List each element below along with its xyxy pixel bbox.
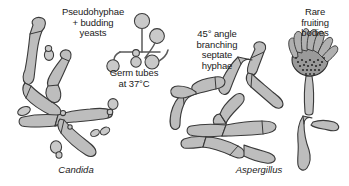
septate-hypha-segment	[220, 93, 244, 123]
pseudohypha-segment	[23, 17, 45, 84]
fungal-morphology-figure: Pseudohyphae + budding yeasts Germ tubes…	[0, 0, 349, 186]
germ-tube-yeast	[133, 50, 140, 57]
septate-hypha-segment	[311, 121, 339, 131]
budding-yeast	[45, 46, 51, 52]
septate-hypha-segment	[203, 137, 245, 158]
label-germ-tubes: Germ tubes at 37°C	[99, 68, 169, 89]
germ-tube-yeast	[131, 57, 141, 67]
pseudohypha-segment	[58, 119, 96, 156]
septate-hypha-segment	[247, 42, 265, 76]
septate-hypha-segment	[298, 116, 312, 170]
label-fruiting-bodies: Rare fruiting bodies	[288, 7, 342, 39]
septate-hypha-segment	[244, 145, 275, 163]
germ-tube	[114, 52, 120, 60]
budding-yeast	[50, 141, 61, 153]
germ-tube-yeast	[150, 29, 165, 44]
label-septate-hyphae: 45° angle branching septate hyphae	[186, 29, 248, 71]
budding-yeast	[107, 109, 113, 115]
label-pseudohyphae: Pseudohyphae + budding yeasts	[52, 7, 134, 39]
caption-aspergillus: Aspergillus	[213, 164, 305, 175]
conidiophore-stipe	[304, 76, 313, 115]
budding-yeast	[108, 99, 118, 110]
conidiophore	[289, 29, 338, 115]
budding-yeast	[56, 152, 62, 158]
budding-yeast	[60, 110, 65, 115]
septate-hypha-segment	[222, 121, 276, 136]
budding-yeast	[89, 128, 100, 138]
germ-tube-yeast	[134, 13, 149, 28]
budding-yeast	[99, 126, 111, 137]
caption-candida: Candida	[36, 164, 116, 175]
budding-yeast	[68, 125, 72, 129]
